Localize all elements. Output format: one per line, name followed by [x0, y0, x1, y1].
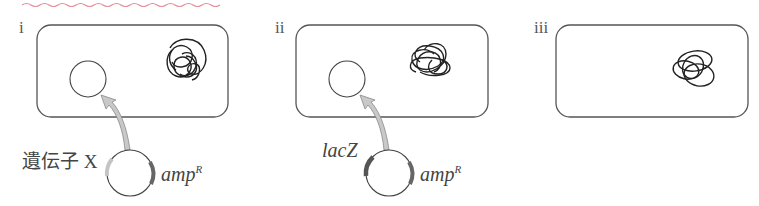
diagram-canvas — [0, 0, 759, 206]
amp-r-sup-i: R — [195, 163, 202, 175]
amp-r-text-i: amp — [161, 163, 195, 185]
chromosome-iii — [671, 49, 715, 89]
lacz-label: lacZ — [322, 139, 358, 162]
cell-iii — [556, 25, 748, 117]
wavy-underline — [22, 4, 220, 7]
transfer-arrow-i — [101, 95, 130, 150]
amp-r-sup-ii: R — [454, 163, 461, 175]
transfer-arrow-ii — [360, 95, 389, 150]
panel-label-iii: iii — [534, 18, 548, 38]
panel-iii — [556, 25, 748, 117]
panel-label-ii: ii — [275, 18, 284, 38]
amp-r-label-i: ampR — [161, 163, 202, 186]
cell-ii — [296, 25, 488, 117]
plasmid-vector-i — [107, 150, 153, 196]
plasmid-in-cell-ii — [329, 61, 365, 97]
chromosome-i — [167, 39, 206, 80]
chromosome-ii — [410, 44, 450, 76]
amp-r-label-ii: ampR — [420, 163, 461, 186]
panel-label-i: i — [19, 18, 24, 38]
plasmid-in-cell-i — [70, 61, 106, 97]
gene-x-label: 遺伝子 X — [22, 146, 97, 173]
amp-r-text-ii: amp — [420, 163, 454, 185]
